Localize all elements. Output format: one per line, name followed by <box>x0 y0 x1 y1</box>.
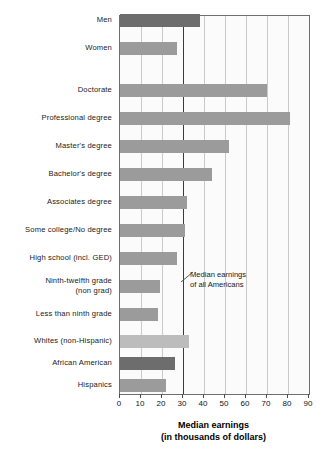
x-tick-label-20: 20 <box>151 399 171 408</box>
category-label-text: Ninth-twelfth grade <box>0 276 112 286</box>
x-tick-label-70: 70 <box>256 399 276 408</box>
category-label-text: Some college/No degree <box>0 225 112 234</box>
x-tick-label-30: 30 <box>172 399 192 408</box>
category-label-ninth-twelfth-grade: Ninth-twelfth grade(non grad) <box>0 276 112 295</box>
x-tick-label-80: 80 <box>277 399 297 408</box>
category-label-text: African American <box>0 358 112 367</box>
category-label-some-college-no-degree: Some college/No degree <box>0 225 112 234</box>
bar-men[interactable] <box>120 14 200 27</box>
bar-ninth-twelfth-grade[interactable] <box>120 280 160 293</box>
category-label-text: Master's degree <box>0 141 112 150</box>
bar-high-school-incl-ged[interactable] <box>120 252 177 265</box>
x-tick-0 <box>119 394 120 398</box>
category-label-whites-non-hispanic: Whites (non-Hispanic) <box>0 336 112 345</box>
x-tick-20 <box>161 394 162 398</box>
category-label-men: Men <box>0 15 112 24</box>
annotation-leader-line-icon <box>180 271 194 285</box>
x-tick-10 <box>140 394 141 398</box>
x-axis-title-line1: Median earnings <box>119 420 308 431</box>
category-label-text: Hispanics <box>0 380 112 389</box>
bar-some-college-no-degree[interactable] <box>120 224 185 237</box>
bar-african-american[interactable] <box>120 357 175 370</box>
category-label-associates-degree: Associates degree <box>0 197 112 206</box>
gridline-50 <box>225 16 226 394</box>
category-label-less-than-ninth-grade: Less than ninth grade <box>0 309 112 318</box>
category-label-bachelor-s-degree: Bachelor's degree <box>0 169 112 178</box>
gridline-70 <box>267 16 268 394</box>
x-tick-40 <box>203 394 204 398</box>
x-tick-70 <box>266 394 267 398</box>
bar-associates-degree[interactable] <box>120 196 187 209</box>
category-label-african-american: African American <box>0 358 112 367</box>
category-label-professional-degree: Professional degree <box>0 113 112 122</box>
median-annotation-line1: Median earnings <box>190 270 246 280</box>
category-label-text: High school (incl. GED) <box>0 253 112 262</box>
earnings-bar-chart: MenWomenDoctorateProfessional degreeMast… <box>0 0 324 455</box>
median-annotation-line2: of all Americans <box>190 280 246 290</box>
gridline-40 <box>204 16 205 394</box>
category-label-text-secondary: (non grad) <box>0 286 112 296</box>
x-tick-label-90: 90 <box>298 399 318 408</box>
category-label-text: Women <box>0 43 112 52</box>
category-label-text: Men <box>0 15 112 24</box>
category-label-text: Doctorate <box>0 85 112 94</box>
x-tick-label-60: 60 <box>235 399 255 408</box>
bar-master-s-degree[interactable] <box>120 140 229 153</box>
gridline-80 <box>288 16 289 394</box>
median-annotation: Median earnings of all Americans <box>190 270 246 289</box>
category-label-text: Whites (non-Hispanic) <box>0 336 112 345</box>
category-label-text: Bachelor's degree <box>0 169 112 178</box>
category-label-text: Associates degree <box>0 197 112 206</box>
x-axis: 0102030405060708090 <box>119 394 308 414</box>
plot-area <box>119 15 310 395</box>
x-tick-60 <box>245 394 246 398</box>
category-label-master-s-degree: Master's degree <box>0 141 112 150</box>
bar-hispanics[interactable] <box>120 379 166 392</box>
x-tick-label-40: 40 <box>193 399 213 408</box>
x-tick-label-10: 10 <box>130 399 150 408</box>
bar-doctorate[interactable] <box>120 84 267 97</box>
x-tick-30 <box>182 394 183 398</box>
x-tick-50 <box>224 394 225 398</box>
bar-women[interactable] <box>120 42 177 55</box>
bar-professional-degree[interactable] <box>120 112 290 125</box>
bar-less-than-ninth-grade[interactable] <box>120 308 158 321</box>
category-label-text: Less than ninth grade <box>0 309 112 318</box>
category-label-text: Professional degree <box>0 113 112 122</box>
bar-whites-non-hispanic[interactable] <box>120 335 189 348</box>
x-tick-90 <box>308 394 309 398</box>
category-label-hispanics: Hispanics <box>0 380 112 389</box>
category-label-doctorate: Doctorate <box>0 85 112 94</box>
x-tick-label-0: 0 <box>109 399 129 408</box>
x-tick-80 <box>287 394 288 398</box>
category-label-women: Women <box>0 43 112 52</box>
x-tick-label-50: 50 <box>214 399 234 408</box>
x-axis-title-line2: (in thousands of dollars) <box>119 432 308 443</box>
bar-bachelor-s-degree[interactable] <box>120 168 212 181</box>
gridline-60 <box>246 16 247 394</box>
category-label-high-school-incl-ged: High school (incl. GED) <box>0 253 112 262</box>
